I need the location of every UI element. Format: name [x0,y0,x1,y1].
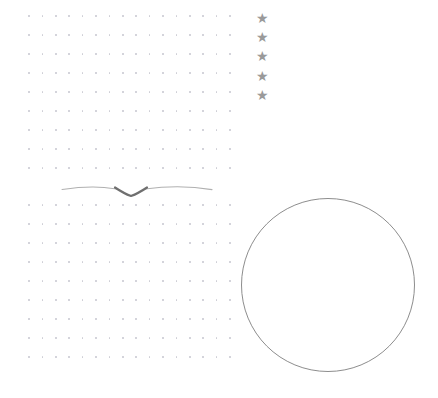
star-icon: ★ [256,69,269,83]
star-icon: ★ [256,30,269,44]
circle-outline [241,198,415,372]
star-icon: ★ [256,88,269,102]
star-icon: ★ [256,11,269,25]
star-icon: ★ [256,49,269,63]
composition-canvas: ★★★★★ [0,0,438,398]
